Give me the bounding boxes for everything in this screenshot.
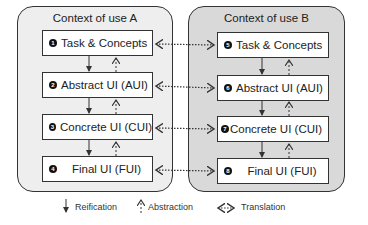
legend-abstraction-label: Abstraction — [148, 202, 193, 212]
legend-reification-label: Reification — [75, 202, 117, 212]
legend-abstraction: Abstraction — [148, 202, 193, 212]
arrows-layer — [0, 0, 368, 225]
legend-reification: Reification — [75, 202, 117, 212]
legend-translation-label: Translation — [241, 202, 285, 212]
translation-arrows — [156, 44, 214, 171]
legend-translation: Translation — [241, 202, 285, 212]
